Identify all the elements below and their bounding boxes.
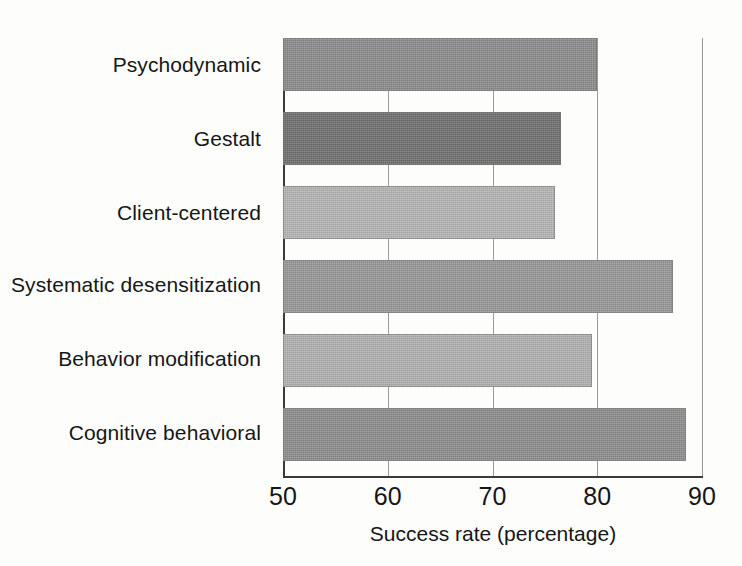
category-label-systematic-desensitization: Systematic desensitization: [0, 258, 272, 311]
bar-cognitive-behavioral[interactable]: [283, 408, 686, 461]
x-tick-label-70: 70: [463, 482, 523, 511]
plot-area: [283, 38, 702, 477]
bar-row: [283, 334, 702, 387]
x-tick-label-90: 90: [672, 482, 732, 511]
bar-systematic-desensitization[interactable]: [283, 260, 673, 313]
bar-row: [283, 186, 702, 239]
bar-psychodynamic[interactable]: [283, 38, 597, 91]
bar-gestalt[interactable]: [283, 112, 561, 165]
bar-chart-figure: Psychodynamic Gestalt Client-centered Sy…: [0, 0, 742, 566]
gridline-90: [702, 38, 703, 477]
category-label-psychodynamic: Psychodynamic: [0, 38, 272, 91]
category-axis-labels: Psychodynamic Gestalt Client-centered Sy…: [0, 38, 272, 477]
bar-row: [283, 408, 702, 461]
x-axis-line: [283, 476, 703, 478]
category-label-behavior-modification: Behavior modification: [0, 332, 272, 385]
x-axis-title: Success rate (percentage): [283, 522, 703, 546]
bar-client-centered[interactable]: [283, 186, 555, 239]
bar-row: [283, 112, 702, 165]
x-tick-label-80: 80: [567, 482, 627, 511]
category-label-gestalt: Gestalt: [0, 112, 272, 165]
x-tick-label-50: 50: [253, 482, 313, 511]
bar-row: [283, 260, 702, 313]
bar-row: [283, 38, 702, 91]
bar-behavior-modification[interactable]: [283, 334, 592, 387]
category-label-client-centered: Client-centered: [0, 186, 272, 239]
x-tick-label-60: 60: [358, 482, 418, 511]
x-axis-tick-labels: 5060708090: [0, 482, 742, 514]
category-label-cognitive-behavioral: Cognitive behavioral: [0, 406, 272, 459]
